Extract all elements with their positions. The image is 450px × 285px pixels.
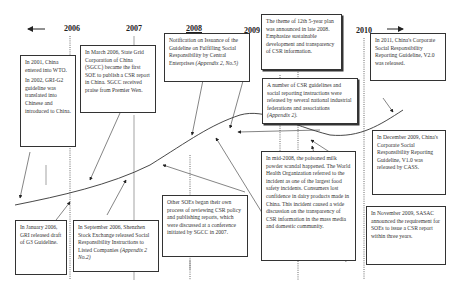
event-box-guideline-v2: In 2011, China's Corporate Social Respon… xyxy=(370,33,446,81)
year-2007: 2007 xyxy=(126,24,142,33)
event-text-milk-scandal: In mid-2008, the poisoned milk powder sc… xyxy=(266,155,351,231)
event-text-gri-g3: In January 2006, GRI released draft of G… xyxy=(20,224,62,247)
event-box-sgcc: In March 2006, State Grid Corporation of… xyxy=(80,45,156,113)
appendix-ref: (Appendix 2, No.5) xyxy=(196,60,239,66)
year-2008: 2008 xyxy=(186,24,202,33)
event-box-guideline-v1: In December 2009, China's Corporate Soci… xyxy=(372,130,446,195)
event-text-five-year-plan: The theme of 12th 5-year plan was announ… xyxy=(266,18,337,56)
event-box-five-year-plan: The theme of 12th 5-year plan was announ… xyxy=(261,14,342,70)
event-box-milk-scandal: In mid-2008, the poisoned milk powder sc… xyxy=(261,151,356,261)
event-box-federations: A number of CSR guidelines and social re… xyxy=(262,78,358,124)
event-text-other-soes: Other SOEs began their own process of re… xyxy=(167,199,243,237)
appendix-ref: (Appendix 2). xyxy=(267,112,297,118)
event-text-guideline-v2: In 2011, China's Corporate Social Respon… xyxy=(375,37,441,67)
event-box-notification: Notification on Issuance of the Guidelin… xyxy=(164,33,250,82)
event-text-sasac: In November 2009, SASAC announced the re… xyxy=(371,210,441,240)
event-text-gri-g2: In 2002, GRI-G2 guideline was translated… xyxy=(25,77,71,115)
year-2006: 2006 xyxy=(64,24,80,33)
event-text-guideline-v1: In December 2009, China's Corporate Soci… xyxy=(377,134,441,172)
event-box-wto-gri-g2: In 2001, China entered into WTO. In 2002… xyxy=(20,55,76,147)
event-text-federations: A number of CSR guidelines and social re… xyxy=(267,82,352,111)
event-text-sgcc: In March 2006, State Grid Corporation of… xyxy=(85,49,151,95)
event-text-wto: In 2001, China entered into WTO. xyxy=(25,59,71,74)
event-box-gri-g3: In January 2006, GRI released draft of G… xyxy=(15,220,67,275)
event-box-other-soes: Other SOEs began their own process of re… xyxy=(162,195,248,257)
event-box-sasac: In November 2009, SASAC announced the re… xyxy=(366,206,446,265)
event-box-shenzhen: In September 2006, Shenzhen Stock Exchan… xyxy=(73,220,159,272)
